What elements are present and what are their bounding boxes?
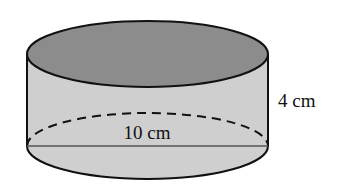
height-label: 4 cm (278, 90, 316, 111)
cylinder-top-face (27, 21, 268, 87)
cylinder-diagram: 10 cm 4 cm (0, 0, 338, 191)
diameter-label: 10 cm (124, 122, 171, 143)
